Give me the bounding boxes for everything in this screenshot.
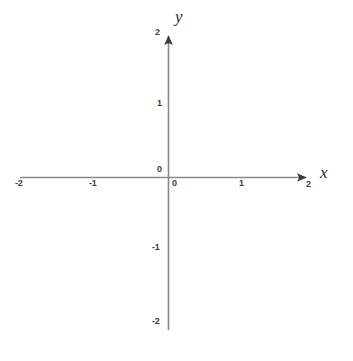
coordinate-plane-figure: -2 -1 0 1 2 2 1 0 -1 -2 y x <box>0 0 353 361</box>
x-axis-label: x <box>320 164 328 181</box>
x-tick-label-neg1: -1 <box>89 179 97 188</box>
x-tick-label-neg2: -2 <box>15 179 23 188</box>
y-tick-label-1: 1 <box>157 99 162 108</box>
y-tick-label-origin: 0 <box>157 165 162 174</box>
y-tick-label-neg2: -2 <box>152 317 160 326</box>
x-tick-label-origin: 0 <box>172 179 177 188</box>
y-tick-label-neg1: -1 <box>152 243 160 252</box>
y-axis-label: y <box>175 8 183 25</box>
x-tick-label-1: 1 <box>239 179 244 188</box>
y-tick-label-2: 2 <box>155 28 160 37</box>
x-tick-label-2: 2 <box>306 180 311 189</box>
